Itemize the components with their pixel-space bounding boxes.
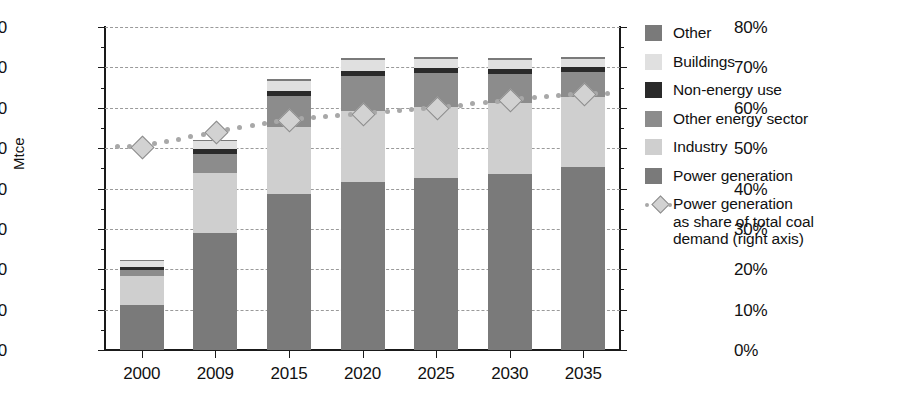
bar-2020[interactable] [341, 58, 385, 350]
bar-2009[interactable] [193, 140, 237, 350]
bar-segment-other-energy-sector[interactable] [120, 270, 164, 276]
legend-item-label: Other [673, 24, 711, 41]
bar-segment-non-energy-use[interactable] [414, 68, 458, 73]
bar-segment-industry[interactable] [267, 127, 311, 194]
line-dot [311, 115, 316, 120]
line-dot [250, 123, 255, 128]
line-dot [470, 101, 475, 106]
legend-swatch-icon [645, 111, 662, 127]
legend-item-label-multiline: Power generation as share of total coal … [673, 195, 814, 248]
plot-area: 0400800120016002000240028003200 0%10%20%… [105, 27, 620, 350]
legend-item-industry[interactable]: Industry [645, 138, 895, 155]
bar-segment-other-energy-sector[interactable] [267, 96, 311, 127]
legend-line-1: Power generation [673, 195, 814, 213]
chart-legend: OtherBuildingsNon-energy useOther energy… [645, 24, 895, 248]
legend-item-power-generation[interactable]: Power generation [645, 167, 895, 184]
bar-segment-buildings[interactable] [561, 59, 605, 68]
line-dot [237, 125, 242, 130]
bar-segment-other[interactable] [341, 58, 385, 60]
y-axis-right-tick [620, 269, 627, 270]
y-axis-right-minor-tick [620, 88, 624, 89]
legend-item-other[interactable]: Other [645, 24, 895, 41]
bar-segment-industry[interactable] [561, 97, 605, 167]
legend-item-label: Other energy sector [673, 110, 808, 127]
line-dot [544, 94, 549, 99]
x-axis-label-2025: 2025 [396, 364, 476, 384]
legend-swatch-icon [645, 139, 662, 155]
bar-segment-non-energy-use[interactable] [488, 69, 532, 74]
bar-segment-other[interactable] [414, 57, 458, 59]
bar-2030[interactable] [488, 58, 532, 350]
y-axis-right-tick-label: 0% [734, 342, 794, 359]
y-axis-left-tick [98, 310, 105, 311]
legend-items-group: OtherBuildingsNon-energy useOther energy… [645, 24, 895, 184]
bar-segment-power-generation[interactable] [120, 305, 164, 350]
bar-segment-buildings[interactable] [341, 60, 385, 71]
bar-segment-power-generation[interactable] [488, 174, 532, 350]
bar-segment-other[interactable] [267, 79, 311, 81]
legend-item-power-generation-share[interactable]: Power generation as share of total coal … [645, 195, 895, 248]
y-axis-left-minor-tick [101, 168, 105, 169]
bar-segment-non-energy-use[interactable] [267, 91, 311, 96]
y-axis-right-minor-tick [620, 209, 624, 210]
bar-segment-other[interactable] [120, 260, 164, 261]
bar-2035[interactable] [561, 57, 605, 350]
legend-item-label: Industry [673, 138, 727, 155]
line-dot [176, 137, 181, 142]
bar-segment-non-energy-use[interactable] [561, 67, 605, 72]
y-axis-left-tick-label: 0 [0, 342, 7, 359]
x-axis-label-2035: 2035 [543, 364, 623, 384]
bar-segment-non-energy-use[interactable] [120, 267, 164, 270]
bar-segment-power-generation[interactable] [341, 182, 385, 350]
bar-segment-buildings[interactable] [267, 81, 311, 91]
bar-segment-buildings[interactable] [414, 59, 458, 69]
line-dot [164, 139, 169, 144]
y-axis-right-minor-tick [620, 168, 624, 169]
x-axis-tick [436, 350, 437, 358]
bar-segment-other-energy-sector[interactable] [488, 74, 532, 103]
bar-segment-other-energy-sector[interactable] [414, 73, 458, 106]
bar-segment-industry[interactable] [488, 103, 532, 174]
bar-segment-power-generation[interactable] [414, 178, 458, 350]
bar-segment-other-energy-sector[interactable] [341, 76, 385, 111]
y-axis-left-tick [98, 108, 105, 109]
y-axis-left-tick [98, 27, 105, 28]
bar-2000[interactable] [120, 260, 164, 350]
bar-segment-other-energy-sector[interactable] [561, 72, 605, 97]
y-axis-left-tick-label: 3200 [0, 19, 7, 36]
x-axis-tick [583, 350, 584, 358]
bar-segment-other[interactable] [193, 140, 237, 142]
line-marker-2000[interactable] [131, 135, 155, 159]
bar-segment-power-generation[interactable] [193, 233, 237, 350]
legend-swatch-icon [645, 25, 662, 41]
bar-segment-industry[interactable] [193, 173, 237, 233]
bar-segment-power-generation[interactable] [561, 167, 605, 350]
y-axis-left-minor-tick [101, 209, 105, 210]
bar-2025[interactable] [414, 57, 458, 350]
bar-segment-buildings[interactable] [120, 261, 164, 267]
bar-segment-industry[interactable] [414, 107, 458, 179]
line-dot [225, 127, 230, 132]
bar-segment-other-energy-sector[interactable] [193, 154, 237, 174]
legend-item-non-energy-use[interactable]: Non-energy use [645, 81, 895, 98]
bar-2015[interactable] [267, 79, 311, 350]
y-axis-left-minor-tick [101, 289, 105, 290]
bar-segment-industry[interactable] [341, 111, 385, 183]
legend-swatch-icon [645, 82, 662, 98]
bar-segment-power-generation[interactable] [267, 194, 311, 350]
bar-segment-non-energy-use[interactable] [341, 71, 385, 76]
legend-swatch-icon [645, 54, 662, 70]
bar-segment-buildings[interactable] [193, 141, 237, 149]
line-dot [397, 108, 402, 113]
legend-item-buildings[interactable]: Buildings [645, 53, 895, 70]
x-axis-tick [289, 350, 290, 358]
legend-item-other-energy-sector[interactable]: Other energy sector [645, 110, 895, 127]
x-axis-tick [215, 350, 216, 358]
bar-segment-other[interactable] [488, 58, 532, 60]
bar-segment-non-energy-use[interactable] [193, 149, 237, 154]
bar-segment-other[interactable] [561, 57, 605, 59]
gridline [105, 27, 620, 28]
bar-segment-industry[interactable] [120, 276, 164, 305]
bar-segment-buildings[interactable] [488, 60, 532, 69]
x-axis-label-2009: 2009 [175, 364, 255, 384]
